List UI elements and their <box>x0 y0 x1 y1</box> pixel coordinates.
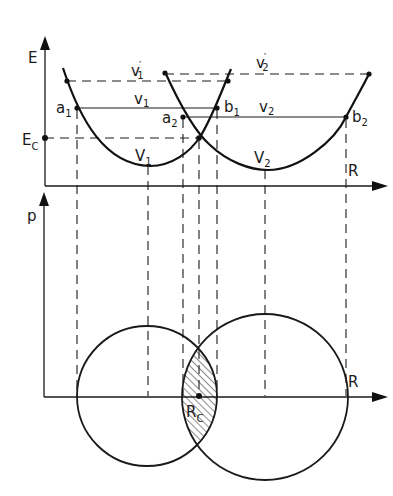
a2-label: a2 <box>162 109 178 129</box>
v2-prime-level-label: v′2 <box>256 52 269 73</box>
b2-label: b2 <box>352 108 368 128</box>
point-v1p-left <box>64 78 69 83</box>
b1-label: b1 <box>224 98 240 118</box>
point-ec <box>42 135 48 141</box>
curve-v2 <box>165 72 369 170</box>
v1-level-label: v1 <box>134 90 149 109</box>
curve-v1-label: V1 <box>135 147 152 167</box>
v2-level-label: v2 <box>259 98 274 117</box>
p-axis-arrow-icon <box>39 192 49 206</box>
point-v2p-left <box>162 70 167 75</box>
p-axis-label: p <box>27 207 37 225</box>
ec-label: EC <box>22 131 38 152</box>
potential-energy-phase-space-diagram: E R EC a1 a2 b1 b2 v1 v′1 v2 v′2 V1 <box>0 0 393 496</box>
point-crossing <box>196 135 202 141</box>
projection-lines <box>77 110 346 396</box>
point-v2p-right <box>366 71 371 76</box>
a1-label: a1 <box>56 99 72 119</box>
point-v1p-right <box>225 78 230 83</box>
e-axis-label: E <box>28 49 37 67</box>
curve-v2-label: V2 <box>254 149 271 169</box>
r-axis-top-label: R <box>348 162 358 180</box>
point-rc <box>196 393 202 399</box>
e-axis-arrow-icon <box>40 36 50 50</box>
v1-prime-level-label: v′1 <box>131 60 144 81</box>
r-axis-bottom-arrow-icon <box>372 392 388 402</box>
point-a1 <box>74 105 79 110</box>
r-axis-bottom-label: R <box>348 373 358 391</box>
point-a2 <box>180 114 185 119</box>
r-axis-top-arrow-icon <box>372 181 388 191</box>
point-b1 <box>214 105 219 110</box>
phase-space-panel: p R RC <box>27 192 388 480</box>
point-b2 <box>343 114 348 119</box>
